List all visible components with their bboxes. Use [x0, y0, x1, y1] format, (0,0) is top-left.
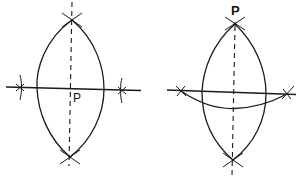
figure-left: P	[6, 2, 141, 166]
right-point-p	[234, 23, 237, 26]
left-bottom-intersection	[69, 156, 72, 159]
right-bottom-intersection	[232, 159, 235, 162]
right-point-label: P	[231, 3, 240, 18]
left-top-intersection	[71, 19, 74, 22]
right-right-cross-icon	[282, 86, 294, 99]
left-dashed-perpendicular	[69, 2, 72, 166]
figure-right: P	[167, 3, 296, 176]
left-point-label: P	[73, 91, 81, 105]
right-dashed-perpendicular	[232, 26, 235, 176]
geometry-constructions: P P	[0, 0, 296, 176]
